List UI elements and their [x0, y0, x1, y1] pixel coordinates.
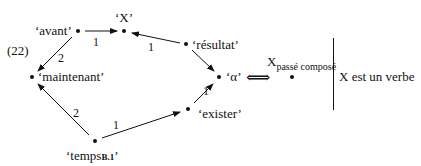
edge-avant-maintenant — [38, 37, 72, 71]
node-dot-temps — [93, 139, 97, 143]
temps-prefix: ‘temps — [66, 148, 101, 163]
edge-resultat-x — [132, 33, 180, 43]
node-dot-alpha — [217, 75, 221, 79]
edge-weight-temps-maintenant: 2 — [73, 107, 79, 119]
node-label-temps: ‘tempsB.1’ — [66, 149, 119, 164]
edge-weight-exister-alpha: 1 — [203, 85, 209, 97]
node-label-avant: ‘avant’ — [35, 24, 72, 37]
node-dot-avant — [76, 29, 80, 33]
node-label-maintenant: ‘maintenant’ — [38, 70, 104, 83]
example-number: (22) — [7, 44, 29, 57]
node-dot-exister — [186, 107, 190, 111]
node-label-alpha: ‘α’ — [226, 70, 241, 83]
node-label-resultat: ‘résultat’ — [192, 38, 239, 51]
node-dot-x — [122, 29, 126, 33]
edge-weight-resultat-x: 1 — [148, 41, 154, 53]
node-label-x: ‘X’ — [115, 11, 133, 24]
passe-compose-label: Xpassé composé — [267, 55, 336, 69]
node-dot-resultat — [184, 42, 188, 46]
edge-weight-avant-x: 1 — [93, 36, 99, 48]
temps-suffix: ’ — [114, 148, 118, 163]
node-dot-passe-compose — [290, 75, 294, 79]
x-subscript: passé composé — [276, 61, 336, 72]
node-label-exister: ‘exister’ — [198, 107, 242, 120]
edge-temps-maintenant — [38, 84, 89, 135]
condition-divider — [333, 38, 334, 110]
node-dot-maintenant — [30, 75, 34, 79]
edge-weight-temps-exister: 1 — [113, 119, 119, 131]
edge-weight-avant-maintenant: 2 — [58, 52, 64, 64]
temps-subscript: B.1 — [101, 152, 114, 162]
equivalence-symbol: ⟺ — [246, 69, 270, 86]
x-label: X — [267, 54, 276, 69]
edge-resultat-alpha — [192, 50, 214, 71]
condition-text: X est un verbe — [339, 70, 414, 83]
